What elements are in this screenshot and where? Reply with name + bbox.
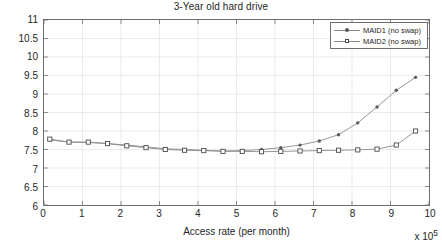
x-tick-label: 1: [79, 208, 85, 219]
x-axis-multiplier-exponent: 5: [433, 228, 438, 238]
chart-title: 3-Year old hard drive: [0, 1, 442, 12]
x-tick-label: 7: [311, 208, 317, 219]
legend-label: MAID2 (no swap): [360, 37, 421, 46]
x-tick-label: 6: [272, 208, 278, 219]
x-tick-label: 2: [118, 208, 124, 219]
x-tick-label: 0: [40, 208, 46, 219]
x-axis-ticks: 012345678910: [43, 208, 430, 224]
chart-figure: 3-Year old hard drive AFR (%) 66.577.588…: [0, 0, 442, 248]
y-tick-label: 8.5: [0, 107, 38, 118]
legend-item-maid1[interactable]: MAID1 (no swap): [334, 25, 424, 36]
x-axis-multiplier: x 105: [414, 228, 438, 242]
x-tick-label: 4: [195, 208, 201, 219]
y-tick-label: 11: [0, 14, 38, 25]
x-tick-label: 10: [424, 208, 435, 219]
x-tick-label: 5: [234, 208, 240, 219]
y-tick-label: 9: [0, 88, 38, 99]
y-tick-label: 9.5: [0, 70, 38, 81]
y-tick-label: 8: [0, 126, 38, 137]
x-tick-label: 3: [156, 208, 162, 219]
x-tick-label: 9: [389, 208, 395, 219]
x-axis-multiplier-base: x 10: [414, 231, 433, 242]
legend-swatch-line-square-icon: [334, 36, 360, 47]
y-tick-label: 6.5: [0, 182, 38, 193]
y-tick-label: 7: [0, 163, 38, 174]
y-tick-label: 7.5: [0, 144, 38, 155]
y-tick-label: 10: [0, 51, 38, 62]
y-axis-label-wrap: AFR (%): [0, 0, 1, 1]
y-tick-label: 10.5: [0, 32, 38, 43]
legend[interactable]: MAID1 (no swap) MAID2 (no swap): [330, 22, 428, 49]
x-axis-label: Access rate (per month): [43, 226, 430, 237]
legend-label: MAID1 (no swap): [360, 26, 421, 35]
y-tick-label: 6: [0, 201, 38, 212]
legend-swatch-line-dot-icon: [334, 25, 360, 36]
legend-item-maid2[interactable]: MAID2 (no swap): [334, 36, 424, 47]
x-tick-label: 8: [350, 208, 356, 219]
